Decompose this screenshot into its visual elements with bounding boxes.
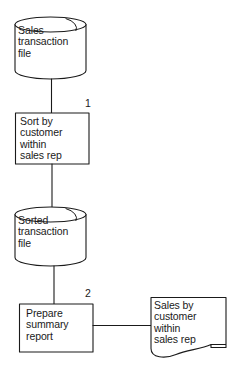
step-number-sort-process: 1 — [85, 98, 91, 109]
label-sales-report-document: Sales by customer within sales rep — [154, 300, 196, 346]
label-prepare-process: Prepare summary report — [26, 308, 68, 342]
label-sorted-transaction-file: Sorted transaction file — [18, 215, 68, 249]
flowchart-diagram: Sales transaction file Sort by customer … — [0, 0, 235, 382]
label-sales-transaction-file: Sales transaction file — [18, 25, 68, 59]
step-number-prepare-process: 2 — [85, 288, 91, 299]
label-sort-process: Sort by customer within sales rep — [20, 116, 62, 162]
